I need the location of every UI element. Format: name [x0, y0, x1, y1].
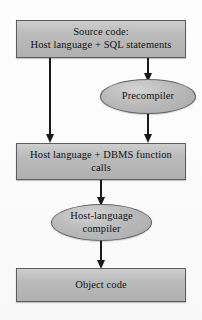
node-host-language-compiler-label: Host-language compiler: [65, 210, 138, 236]
node-object-code: Object code: [16, 268, 186, 302]
edge-precompiler-to-calls: [140, 112, 156, 143]
diagram-canvas: Source code: Host language + SQL stateme…: [0, 0, 202, 320]
edge-calls-to-compiler: [93, 180, 109, 206]
node-host-language-compiler: Host-language compiler: [51, 204, 152, 241]
node-host-dbms-calls: Host language + DBMS function calls: [16, 143, 186, 180]
node-precompiler: Precompiler: [100, 79, 196, 114]
node-source-code: Source code: Host language + SQL stateme…: [16, 20, 186, 58]
node-host-dbms-calls-label: Host language + DBMS function calls: [25, 149, 177, 175]
node-precompiler-label: Precompiler: [117, 90, 179, 103]
edge-compiler-to-object: [93, 239, 109, 269]
edge-source-to-calls: [42, 57, 58, 143]
node-object-code-label: Object code: [70, 279, 132, 292]
node-source-code-label: Source code: Host language + SQL stateme…: [26, 26, 177, 52]
